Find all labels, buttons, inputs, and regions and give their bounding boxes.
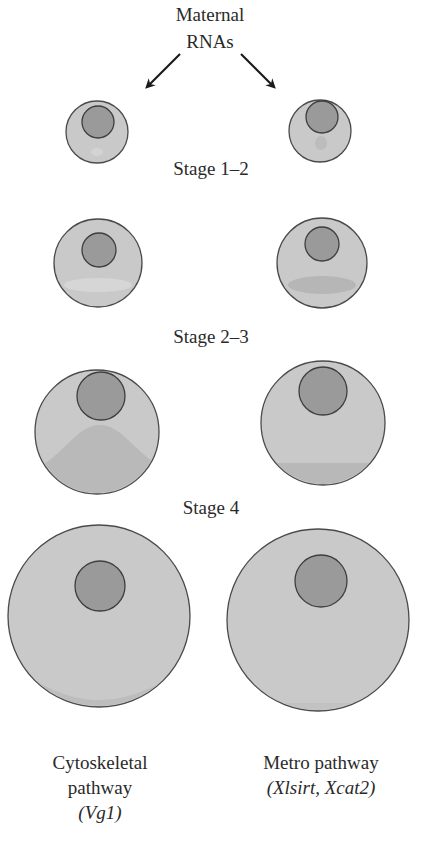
stage-label-1-2: Stage 1–2 — [150, 156, 272, 181]
arrow-to-metro-icon — [241, 54, 273, 86]
stage-label-2-3: Stage 2–3 — [150, 324, 272, 349]
oocyte-left-stage3 — [30, 370, 170, 500]
oocyte-right-stage4 — [220, 529, 420, 723]
metro-pathway-label: Metro pathway — [236, 750, 406, 775]
oocyte-right-stage3 — [255, 361, 395, 493]
arrow-to-cytoskeletal-icon — [148, 54, 180, 86]
oocyte-right-stage1 — [289, 100, 351, 162]
oocyte-diagram — [0, 0, 422, 847]
oocyte-left-stage4 — [0, 525, 200, 720]
cytoskeletal-gene-label: (Vg1) — [20, 800, 180, 825]
oocyte-right-stage2 — [277, 218, 367, 308]
cytoskeletal-pathway-label-2: pathway — [20, 775, 180, 800]
stage-label-4: Stage 4 — [150, 495, 272, 520]
oocyte-left-stage1 — [66, 101, 128, 163]
metro-gene-label: (Xlsirt, Xcat2) — [236, 775, 406, 800]
oocyte-left-stage2 — [54, 219, 142, 307]
cytoskeletal-pathway-label: Cytoskeletal — [20, 750, 180, 775]
